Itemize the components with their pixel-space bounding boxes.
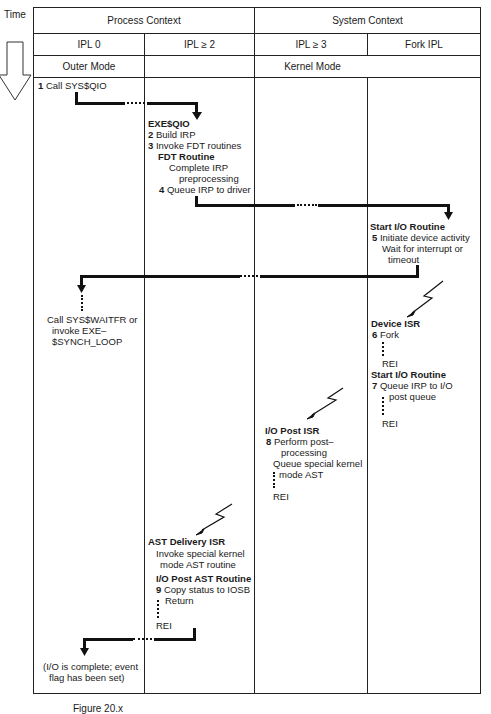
- done-line2: flag has been set): [49, 672, 125, 683]
- done-line1: (I/O is complete; event: [43, 661, 138, 672]
- figure-caption: Figure 20.x: [73, 703, 123, 714]
